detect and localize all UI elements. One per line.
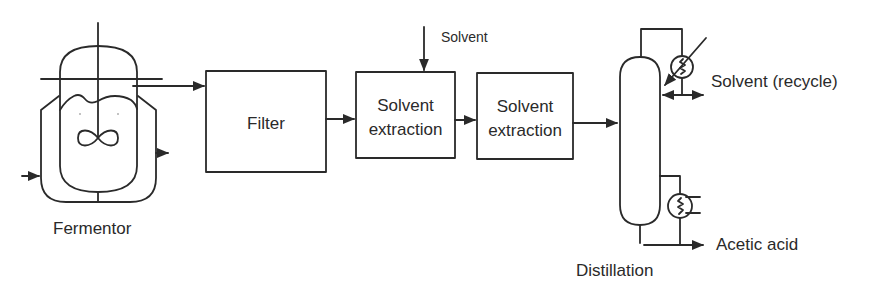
distillation-label: Distillation [576, 261, 653, 280]
acetic-acid-label: Acetic acid [716, 235, 798, 254]
reboiler-pipe [660, 176, 680, 194]
overhead-pipe [641, 29, 682, 57]
reboiler-icon [668, 194, 700, 218]
solvent-extraction-unit-2: Solvent extraction [477, 73, 573, 159]
process-flow-diagram: Fermentor Filter Solvent Solvent extract… [0, 0, 876, 286]
fermentor-label: Fermentor [53, 219, 132, 238]
extraction-1-line2: extraction [369, 120, 443, 139]
extraction-1-line1: Solvent [377, 96, 434, 115]
filter-label: Filter [247, 114, 285, 133]
solvent-feed-label: Solvent [441, 29, 488, 45]
distillation-unit: Solvent (recycle) Acetic acid Distillati… [576, 29, 838, 280]
solvent-recycle-label: Solvent (recycle) [711, 72, 838, 91]
filter-unit: Filter [206, 71, 326, 172]
bubble-icon [117, 113, 119, 115]
solvent-extraction-unit-1: Solvent extraction [356, 72, 455, 158]
fermentor: Fermentor [22, 23, 168, 238]
extraction-2-line2: extraction [488, 121, 562, 140]
distillation-column-icon [620, 57, 660, 225]
extraction-2-line1: Solvent [497, 97, 554, 116]
bubble-icon [79, 113, 81, 115]
